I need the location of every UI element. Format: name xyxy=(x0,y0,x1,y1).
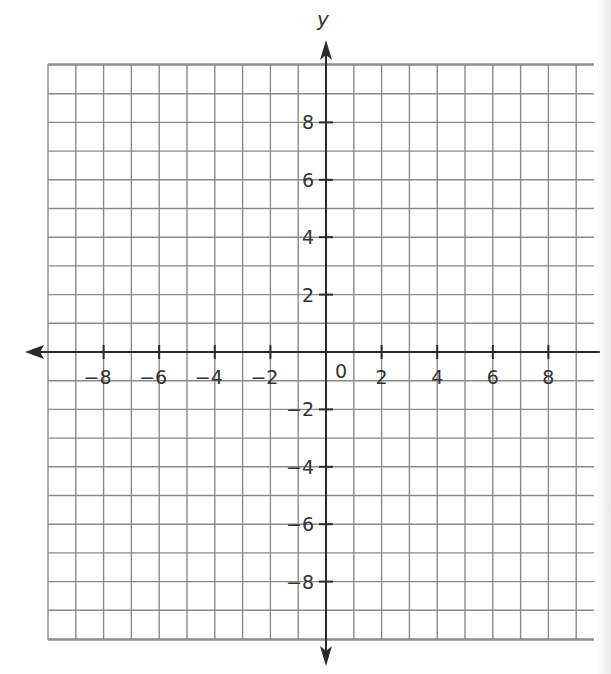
y-tick-label: −2 xyxy=(286,398,314,420)
x-tick-label: 4 xyxy=(431,366,443,388)
y-tick-label: 2 xyxy=(302,284,314,306)
x-tick-label: 6 xyxy=(487,366,499,388)
y-tick-label: 4 xyxy=(302,226,314,248)
x-tick-label: 2 xyxy=(376,366,388,388)
x-tick-label: −4 xyxy=(195,366,223,388)
axes: y 0 xyxy=(25,7,600,666)
x-tick-label: 8 xyxy=(542,366,554,388)
x-tick-label: −8 xyxy=(84,366,112,388)
y-tick-label: −8 xyxy=(286,571,314,593)
origin-label: 0 xyxy=(335,360,347,382)
coordinate-plane: y 0 −8−6−4−22468 8642−2−4−6−8 xyxy=(0,0,611,674)
y-axis-name: y xyxy=(316,7,330,31)
y-tick-label: −4 xyxy=(286,456,314,478)
x-tick-label: −2 xyxy=(250,366,278,388)
y-tick-label: 8 xyxy=(302,111,314,133)
y-tick-label: −6 xyxy=(286,513,314,535)
x-tick-label: −6 xyxy=(139,366,167,388)
y-tick-label: 6 xyxy=(302,169,314,191)
page-edge-shadow xyxy=(597,0,611,674)
